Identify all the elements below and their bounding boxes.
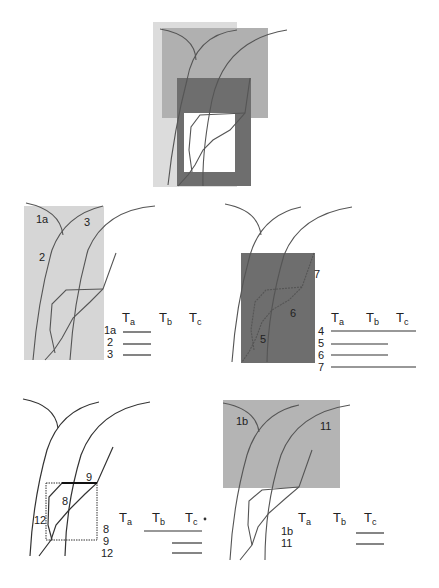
row-label: 12 [101, 547, 113, 559]
overview-panel [153, 22, 287, 187]
row-label: 7 [318, 361, 324, 373]
column-header-tb: Tb [152, 510, 165, 527]
column-header-tb: Tb [159, 310, 172, 327]
column-header-ta: Ta [298, 510, 311, 527]
panel-1: 1a 2 3 Ta Tb Tc 1a 2 3 [24, 203, 202, 360]
region-label: 7 [314, 268, 320, 280]
column-header-ta: Ta [122, 310, 135, 327]
dark-shade-region [241, 253, 315, 363]
marker-dot [204, 518, 207, 521]
row-label: 4 [318, 325, 324, 337]
timing-table: Ta Tb Tc 1b 11 [281, 510, 384, 549]
panel-2: 7 6 5 Ta Tb Tc 4 5 6 7 [225, 204, 416, 373]
region-label: 2 [39, 251, 45, 263]
column-header-tb: Tb [366, 310, 379, 327]
panel-3: 9 8 12 Ta Tb Tc 8 9 12 [23, 399, 206, 559]
row-label: 1b [281, 525, 293, 537]
row-label: 6 [318, 349, 324, 361]
column-header-tc: Tc [364, 510, 377, 527]
timing-table: Ta Tb Tc 4 5 6 7 [318, 310, 416, 373]
row-label: 1a [104, 324, 117, 336]
region-label: 11 [320, 420, 331, 432]
column-header-ta: Ta [331, 310, 344, 327]
curve-1 [23, 399, 58, 428]
region-label: 12 [34, 514, 46, 526]
region-label: 6 [290, 307, 296, 319]
row-label: 2 [107, 336, 113, 348]
region-label: 1b [236, 415, 248, 427]
row-label: 8 [103, 523, 109, 535]
region-label: 1a [36, 213, 49, 225]
column-header-tb: Tb [333, 510, 346, 527]
column-header-tc: Tc [185, 510, 198, 527]
figure-canvas: 1a 2 3 Ta Tb Tc 1a 2 3 7 6 5 Ta Tb Tc 4 [0, 0, 439, 588]
region-label: 3 [84, 216, 90, 228]
region-label: 9 [86, 471, 92, 483]
mid-shade-region [223, 400, 340, 488]
row-label: 11 [281, 537, 292, 549]
column-header-tc: Tc [396, 310, 409, 327]
row-label: 3 [107, 348, 113, 360]
row-label: 5 [318, 337, 324, 349]
column-header-tc: Tc [189, 310, 202, 327]
curve-1 [225, 204, 261, 235]
region-label: 5 [260, 333, 266, 345]
region-label: 8 [62, 495, 68, 507]
white-region [184, 113, 235, 172]
timing-table: Ta Tb Tc 8 9 12 [101, 510, 206, 559]
column-header-ta: Ta [119, 510, 132, 527]
timing-table: Ta Tb Tc 1a 2 3 [104, 310, 202, 360]
panel-4: 1b 11 Ta Tb Tc 1b 11 [223, 400, 384, 560]
row-label: 9 [103, 535, 109, 547]
